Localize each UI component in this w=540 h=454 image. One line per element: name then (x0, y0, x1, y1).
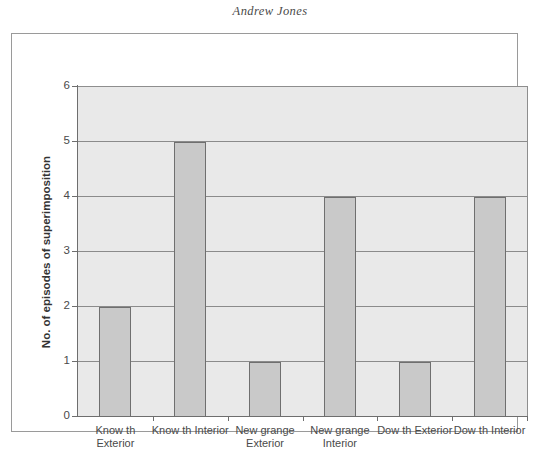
x-tick-label-line: Know th Interior (147, 424, 234, 437)
x-tick-label: New grangeExterior (222, 424, 309, 450)
running-head: Andrew Jones (0, 4, 540, 19)
x-tick-label-line: Exterior (72, 437, 159, 450)
bar (174, 142, 206, 417)
x-tick-mark (303, 416, 304, 421)
y-tick-label: 5 (48, 135, 70, 147)
y-tick-label: 6 (48, 80, 70, 92)
x-tick-mark (153, 416, 154, 421)
x-tick-label-line: New grange (222, 424, 309, 437)
y-tick-mark (72, 251, 77, 252)
x-tick-label-line: Dow th Exterior (371, 424, 458, 437)
gridline (78, 141, 527, 142)
x-tick-label-line: Interior (297, 437, 384, 450)
bar (474, 197, 506, 417)
bar (249, 362, 281, 417)
bar (324, 197, 356, 417)
bar (399, 362, 431, 417)
y-tick-mark (72, 86, 77, 87)
y-tick-mark (72, 361, 77, 362)
gridline (78, 196, 527, 197)
x-tick-label-line: Dow th Interior (446, 424, 533, 437)
plot-inner (78, 87, 527, 417)
gridline (78, 361, 527, 362)
gridline (78, 306, 527, 307)
gridline (78, 251, 527, 252)
x-tick-label-line: Exterior (222, 437, 309, 450)
x-tick-label: Know thExterior (72, 424, 159, 450)
x-tick-label: Dow th Exterior (371, 424, 458, 437)
y-tick-mark (72, 306, 77, 307)
x-tick-label: New grangeInterior (297, 424, 384, 450)
plot-area (78, 86, 528, 417)
y-tick-mark (72, 196, 77, 197)
x-tick-label-line: Know th (72, 424, 159, 437)
x-tick-mark (377, 416, 378, 421)
bar (99, 307, 131, 417)
y-axis-title: No. of episodes of superimposition (40, 152, 52, 352)
y-tick-mark (72, 416, 77, 417)
y-tick-label: 1 (48, 355, 70, 367)
y-axis-line (77, 85, 78, 417)
x-tick-label-line: New grange (297, 424, 384, 437)
x-tick-label: Dow th Interior (446, 424, 533, 437)
x-tick-mark (228, 416, 229, 421)
x-tick-label: Know th Interior (147, 424, 234, 437)
x-tick-mark (452, 416, 453, 421)
y-tick-mark (72, 141, 77, 142)
figure-frame: 0123456 No. of episodes of superimpositi… (11, 33, 518, 432)
y-tick-label: 0 (48, 410, 70, 422)
x-tick-mark (527, 416, 528, 421)
